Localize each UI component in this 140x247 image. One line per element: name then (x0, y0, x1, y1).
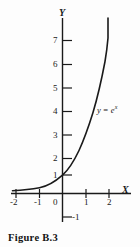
exponential-function-plot (0, 0, 140, 247)
y-tick-label-2: 2 (53, 154, 58, 163)
x-tick-label-1: 1 (84, 198, 89, 207)
x-tick-label-minus-1: -1 (34, 198, 42, 207)
y-axis-ticks (63, 41, 73, 218)
exponential-curve (13, 18, 109, 191)
y-tick-label-1: 1 (53, 171, 58, 180)
x-tick-label-0: 0 (53, 198, 58, 207)
curve-equation-exponent: x (115, 104, 118, 110)
y-tick-label-6: 6 (53, 60, 58, 69)
y-axis-label: Y (59, 8, 65, 18)
x-axis-label: X (122, 185, 129, 195)
curve-equation-label: y = ex (97, 106, 118, 115)
y-tick-label-4: 4 (53, 107, 58, 116)
y-tick-label-3: 3 (53, 131, 58, 140)
figure-container: Y X 7 6 5 4 3 2 1 -1 -2 -1 0 1 2 y = ex … (0, 0, 140, 247)
y-tick-label-7: 7 (53, 36, 58, 45)
x-tick-label-minus-2: -2 (10, 198, 18, 207)
figure-caption: Figure B.3 (8, 232, 58, 243)
y-tick-label-5: 5 (53, 84, 58, 93)
y-tick-label-minus-1: -1 (72, 213, 80, 222)
curve-equation-operator: = (101, 105, 111, 115)
x-tick-label-2: 2 (107, 198, 112, 207)
